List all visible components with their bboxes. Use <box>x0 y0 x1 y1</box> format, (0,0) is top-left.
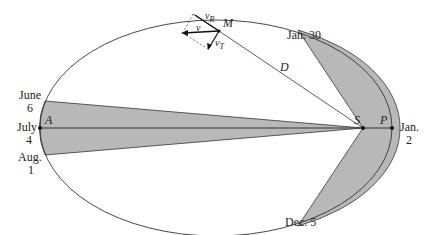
label-jan-day: 2 <box>406 133 412 147</box>
label-dec5: Dec. 5 <box>285 215 316 229</box>
label-A: A <box>44 113 53 127</box>
label-v: v <box>196 22 201 33</box>
label-jan: Jan. <box>400 120 419 134</box>
label-P: P <box>379 113 388 127</box>
label-july-day: 4 <box>26 133 32 147</box>
label-jan30: Jan. 30 <box>287 28 321 42</box>
velocity-arrowhead <box>181 30 188 36</box>
kepler-orbit-diagram: A S P M D v vR vT June 6 July 4 Aug. 1 J… <box>0 0 433 235</box>
velocity-vector <box>183 31 219 33</box>
label-aug-day: 1 <box>28 163 34 177</box>
sun-point <box>361 126 365 130</box>
label-vT: vT <box>215 37 224 51</box>
label-july: July <box>17 120 37 134</box>
label-aug: Aug. <box>18 150 42 164</box>
label-M: M <box>222 16 234 30</box>
aphelion-point <box>38 126 42 130</box>
label-S: S <box>354 113 360 127</box>
label-june-day: 6 <box>27 101 33 115</box>
orbit-svg: A S P M D v vR vT June 6 July 4 Aug. 1 J… <box>0 0 433 235</box>
planet-point <box>218 30 221 33</box>
label-june: June <box>19 88 41 102</box>
label-D: D <box>279 60 289 74</box>
perihelion-point <box>390 126 394 130</box>
dash-left-bottom <box>183 33 208 49</box>
